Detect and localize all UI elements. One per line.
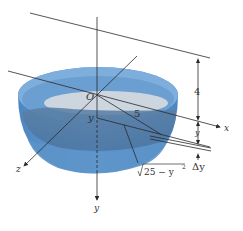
depth-label: y xyxy=(87,112,94,123)
svg-text:25 − y: 25 − y xyxy=(144,167,175,177)
dim-arrow-4-bottom xyxy=(196,116,200,121)
top-reference-line xyxy=(30,13,210,58)
hemisphere-diagram: O x y z 5 y 4 y Δy 25 − y 2 xyxy=(0,0,243,231)
slice-radius-label: 25 − y 2 xyxy=(138,163,186,177)
y-axis-label: y xyxy=(93,203,100,213)
z-axis-label: z xyxy=(15,164,21,174)
svg-text:2: 2 xyxy=(182,163,186,170)
delta-y-label: Δy xyxy=(192,161,205,172)
origin-label: O xyxy=(86,91,94,102)
radius-label: 5 xyxy=(134,108,140,119)
height-label: 4 xyxy=(194,86,200,97)
dim-y-label: y xyxy=(194,128,200,137)
x-axis-label: x xyxy=(224,123,229,133)
dim-arrow-top xyxy=(196,58,200,63)
